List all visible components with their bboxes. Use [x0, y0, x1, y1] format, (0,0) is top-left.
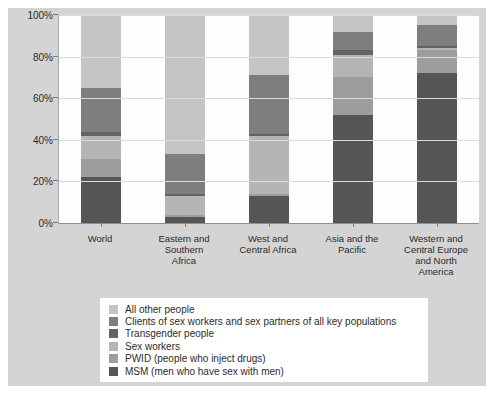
legend-row: MSM (men who have sex with men): [109, 365, 420, 377]
bar-segment: [81, 15, 121, 88]
legend-row: All other people: [109, 303, 420, 315]
stacked-bar: [249, 15, 289, 223]
x-axis-category-label: Asia and the Pacific: [310, 229, 394, 277]
gridline-60: [59, 98, 479, 99]
chart-legend: All other peopleClients of sex workers a…: [100, 298, 428, 382]
bar-segment: [249, 15, 289, 75]
y-axis-label: 80%: [9, 51, 53, 62]
gridline-100: [59, 15, 479, 16]
y-axis-tick: [53, 222, 58, 223]
chart-figure: 0%20%40%60%80%100% WorldEastern and Sout…: [8, 8, 486, 386]
bar-slot: [143, 15, 227, 223]
bar-segment: [165, 154, 205, 194]
gridline-80: [59, 57, 479, 58]
bar-segment: [333, 32, 373, 51]
legend-swatch-icon: [109, 367, 118, 376]
bar-segment: [81, 177, 121, 223]
legend-swatch-icon: [109, 317, 118, 326]
bar-segment: [333, 15, 373, 32]
legend-swatch-icon: [109, 354, 118, 363]
bar-segment: [333, 77, 373, 114]
x-axis-tick: [437, 223, 438, 227]
bar-segment: [81, 88, 121, 132]
legend-label: MSM (men who have sex with men): [125, 366, 284, 377]
bar-slot: [311, 15, 395, 223]
plot-area: 0%20%40%60%80%100%: [58, 15, 479, 224]
y-axis-tick: [53, 180, 58, 181]
stacked-bar: [417, 15, 457, 223]
bars-container: [59, 15, 479, 223]
legend-label: Transgender people: [125, 328, 214, 339]
x-axis-tick: [101, 223, 102, 227]
gridline-20: [59, 181, 479, 182]
x-axis-category-label: Western and Central Europe and North Ame…: [394, 229, 478, 277]
x-axis-category-label: West and Central Africa: [226, 229, 310, 277]
y-axis-label: 100%: [9, 10, 53, 21]
legend-label: Clients of sex workers and sex partners …: [125, 316, 396, 327]
bar-slot: [227, 15, 311, 223]
bar-segment: [417, 25, 457, 46]
legend-row: Clients of sex workers and sex partners …: [109, 315, 420, 327]
x-axis-category-label: Eastern and Southern Africa: [142, 229, 226, 277]
gridline-40: [59, 140, 479, 141]
bar-segment: [249, 75, 289, 133]
legend-label: PWID (people who inject drugs): [125, 353, 266, 364]
x-axis-labels: WorldEastern and Southern AfricaWest and…: [58, 229, 478, 277]
bar-slot: [395, 15, 479, 223]
bar-segment: [81, 159, 121, 178]
legend-swatch-icon: [109, 342, 118, 351]
legend-label: All other people: [125, 304, 195, 315]
legend-label: Sex workers: [125, 341, 180, 352]
x-axis-tick: [269, 223, 270, 227]
stacked-bar: [81, 15, 121, 223]
y-axis-label: 60%: [9, 93, 53, 104]
bar-segment: [333, 55, 373, 78]
y-axis-tick: [53, 14, 58, 15]
bar-segment: [333, 115, 373, 223]
y-axis-label: 20%: [9, 176, 53, 187]
bar-segment: [417, 15, 457, 25]
y-axis-tick: [53, 97, 58, 98]
y-axis-label: 0%: [9, 218, 53, 229]
y-axis-tick: [53, 56, 58, 57]
stacked-bar: [165, 15, 205, 223]
legend-row: PWID (people who inject drugs): [109, 353, 420, 365]
bar-segment: [417, 50, 457, 73]
bar-segment: [165, 196, 205, 215]
y-axis-tick: [53, 139, 58, 140]
bar-segment: [249, 136, 289, 194]
bar-slot: [59, 15, 143, 223]
bar-segment: [249, 196, 289, 223]
x-axis-category-label: World: [58, 229, 142, 277]
legend-swatch-icon: [109, 305, 118, 314]
legend-swatch-icon: [109, 329, 118, 338]
legend-row: Sex workers: [109, 340, 420, 352]
x-axis-tick: [185, 223, 186, 227]
page: { "figure": { "background": "#d4d4d4", "…: [0, 0, 494, 394]
bar-segment: [417, 73, 457, 223]
legend-row: Transgender people: [109, 328, 420, 340]
y-axis-label: 40%: [9, 134, 53, 145]
stacked-bar: [333, 15, 373, 223]
bar-segment: [165, 15, 205, 154]
x-axis-tick: [353, 223, 354, 227]
